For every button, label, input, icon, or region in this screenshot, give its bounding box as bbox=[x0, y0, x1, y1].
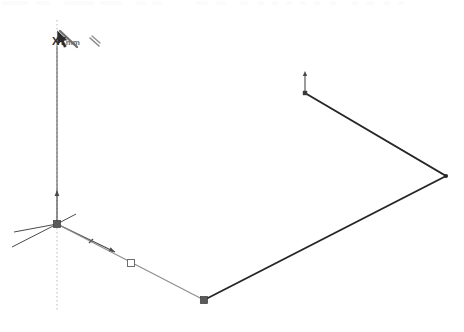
snap-midpoint-square[interactable] bbox=[128, 260, 135, 267]
endpoint-normal-arrow-head bbox=[303, 71, 307, 76]
axis-triad-layer bbox=[12, 44, 115, 252]
sketch-polyline[interactable] bbox=[204, 93, 446, 300]
marker-layer[interactable] bbox=[54, 71, 449, 304]
endpoint-normal-arrow-base[interactable] bbox=[303, 91, 307, 95]
ruler-icon bbox=[90, 38, 99, 46]
axis-aux-left bbox=[14, 224, 57, 232]
vertex-right-dot[interactable] bbox=[444, 174, 448, 178]
cursor-unit-label: mm bbox=[66, 38, 80, 47]
ruler-icon-edge bbox=[92, 36, 100, 43]
cursor-axis-label: XY bbox=[52, 35, 66, 47]
vertex-lower-square[interactable] bbox=[201, 297, 208, 304]
modeling-viewport[interactable]: XYmm bbox=[0, 0, 464, 332]
geometry-layer[interactable] bbox=[204, 93, 446, 300]
cursor-coordinate-label: XYmm bbox=[52, 36, 80, 48]
sketch-canvas[interactable] bbox=[0, 0, 464, 332]
axis-z-up-arrowhead bbox=[55, 190, 60, 196]
axis-y-left bbox=[12, 224, 57, 247]
vertex-origin-square[interactable] bbox=[54, 221, 61, 228]
application-window: XYmm bbox=[0, 0, 464, 332]
